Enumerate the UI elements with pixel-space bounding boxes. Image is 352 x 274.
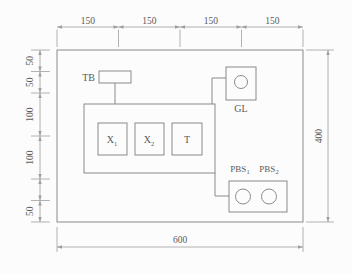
drawing-svg: 150 150 150 150 50 50 100 100 50 4 (0, 0, 352, 274)
pbs2-button-circle (262, 189, 277, 204)
dim-top-4: 150 (265, 16, 280, 26)
right-dimension: 400 (306, 50, 334, 222)
dim-left-1: 50 (25, 56, 35, 66)
dim-left-2: 50 (25, 77, 35, 87)
pbs-component: PBS1 PBS2 (215, 164, 287, 212)
gl-connector-line (212, 78, 226, 104)
gl-component: GL (212, 67, 256, 114)
gl-lamp-circle (235, 76, 248, 89)
pbs2-label: PBS2 (259, 164, 278, 175)
dim-left-4: 100 (25, 150, 35, 165)
pbs-box (229, 181, 287, 212)
pbs1-button-circle (236, 189, 251, 204)
bottom-dimension: 600 (57, 227, 303, 252)
dim-left-6: 50 (25, 206, 35, 216)
relay-group: X1 X2 T (98, 123, 202, 155)
pbs-connector-line (215, 173, 229, 196)
dim-top-3: 150 (204, 16, 219, 26)
tb-component: TB (82, 71, 131, 104)
left-dimension-chain: 50 50 100 100 50 (25, 50, 50, 222)
pbs1-label: PBS1 (230, 164, 249, 175)
dim-right: 400 (314, 129, 324, 144)
dim-top-1: 150 (81, 16, 96, 26)
panel-layout-drawing: 150 150 150 150 50 50 100 100 50 4 (0, 0, 352, 274)
x2-label: X2 (144, 134, 154, 147)
dim-left-3: 100 (25, 107, 35, 122)
tb-block (99, 71, 131, 83)
gl-box (226, 67, 256, 100)
gl-label: GL (234, 103, 247, 114)
dim-bottom: 600 (173, 235, 188, 245)
tb-label: TB (82, 72, 95, 83)
dim-top-2: 150 (142, 16, 157, 26)
top-dimension-chain: 150 150 150 150 (57, 16, 303, 47)
x1-label: X1 (107, 134, 117, 147)
t-label: T (184, 134, 190, 145)
